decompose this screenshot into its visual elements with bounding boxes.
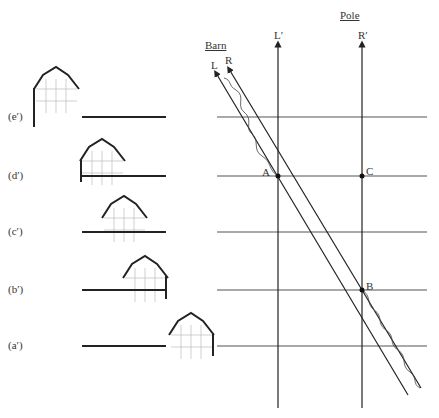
frame-label-e: (e′)	[8, 111, 23, 122]
label-L: L	[211, 60, 218, 71]
label-Lp: L′	[274, 30, 283, 41]
frame-label-c: (c′)	[8, 226, 23, 237]
barn-title: Barn	[205, 40, 226, 51]
frame-d	[80, 139, 166, 185]
frame-b	[82, 256, 168, 302]
frame-e	[34, 67, 166, 127]
event-C	[360, 174, 365, 179]
signal-wave-top	[224, 78, 278, 176]
frame-a	[82, 313, 214, 359]
event-B	[360, 288, 365, 293]
label-A: A	[262, 167, 270, 178]
frame-label-b: (b′)	[8, 284, 23, 295]
pole-title: Pole	[340, 10, 360, 21]
frame-label-d: (d′)	[8, 170, 23, 181]
event-A	[276, 174, 281, 179]
worldline-L	[216, 73, 408, 395]
label-R: R	[225, 55, 232, 66]
time-slices	[217, 117, 427, 346]
frame-label-a: (a′)	[8, 340, 23, 351]
frame-c	[82, 196, 166, 242]
label-Rp: R′	[358, 30, 368, 41]
label-C: C	[366, 166, 373, 177]
label-B: B	[366, 281, 373, 292]
spacetime-diagram	[0, 0, 439, 418]
